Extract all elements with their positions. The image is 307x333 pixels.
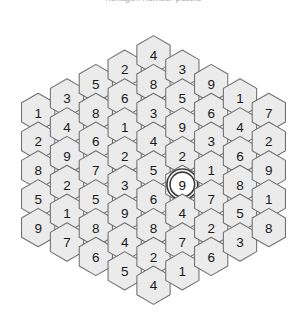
hexagon-puzzle-figure: hexagon number puzzle 128593492175867586…: [0, 0, 307, 333]
hex-cell-layer: 1285934921758675862612394548345682435929…: [22, 36, 286, 305]
hex-cell-shape: [108, 252, 141, 290]
hex-cell-shape: [195, 237, 228, 275]
hex-cell[interactable]: 5: [108, 252, 141, 290]
hex-cell-shape: [223, 223, 256, 261]
hex-cell[interactable]: 6: [79, 237, 112, 275]
hex-cell[interactable]: 9: [22, 208, 55, 246]
hex-cell-shape: [252, 208, 285, 246]
hex-cell-shape: [50, 223, 83, 261]
hex-grid: 1285934921758675862612394548345682435929…: [0, 4, 307, 333]
hex-cell[interactable]: 8: [252, 208, 285, 246]
figure-caption-text: hexagon number puzzle: [105, 0, 201, 3]
hex-cell-shape: [22, 208, 55, 246]
hex-grid-container: 1285934921758675862612394548345682435929…: [0, 4, 307, 333]
hex-cell-shape: [166, 252, 199, 290]
hex-cell-shape: [79, 237, 112, 275]
hex-cell[interactable]: 3: [223, 223, 256, 261]
hex-cell[interactable]: 4: [137, 266, 170, 304]
hex-cell-shape: [137, 266, 170, 304]
hex-cell[interactable]: 7: [50, 223, 83, 261]
hex-cell[interactable]: 6: [195, 237, 228, 275]
hex-cell[interactable]: 1: [166, 252, 199, 290]
